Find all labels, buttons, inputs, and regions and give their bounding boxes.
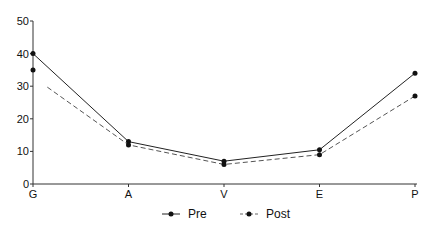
legend-marker-post [247,212,252,217]
line-chart: 01020304050GAVEP Pre Post [0,0,435,229]
data-point-post [31,67,36,72]
x-tick-label: P [411,188,418,200]
series-line-pre [33,54,415,162]
x-tick-label: V [220,188,228,200]
chart-series [31,51,418,167]
y-tick-label: 30 [17,80,29,92]
x-tick-label: G [29,188,38,200]
legend-item-post: Post [240,207,291,221]
data-point-post [222,162,227,167]
data-point-post [317,152,322,157]
data-point-post [126,142,131,147]
data-point-pre [31,51,36,56]
legend-item-pre: Pre [162,207,207,221]
data-point-pre [413,71,418,76]
y-tick-label: 20 [17,113,29,125]
data-point-post [413,93,418,98]
legend-marker-pre [169,212,174,217]
chart-axes: 01020304050GAVEP [17,15,419,200]
x-tick-label: A [125,188,133,200]
y-tick-label: 50 [17,15,29,27]
y-tick-label: 10 [17,145,29,157]
chart-legend: Pre Post [162,207,291,221]
series-line-post [47,87,415,164]
data-point-pre [317,147,322,152]
legend-label-pre: Pre [188,207,207,221]
legend-label-post: Post [266,207,291,221]
x-tick-label: E [316,188,323,200]
y-tick-label: 40 [17,48,29,60]
